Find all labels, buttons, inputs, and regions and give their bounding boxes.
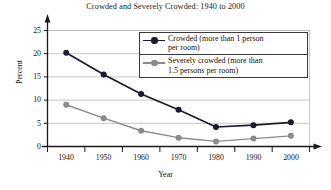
legend-label-severely-crowded-line1: Severely crowded (more than [168, 56, 262, 65]
ytick-label-0: 0 [21, 142, 41, 151]
chart-legend: Crowded (more than 1 person per room) Se… [139, 32, 308, 78]
ytick-label-5: 5 [21, 119, 41, 128]
data-point [250, 136, 256, 142]
y-axis-title: Percent [15, 60, 24, 84]
legend-label-crowded-line1: Crowded (more than 1 person [168, 34, 264, 43]
xtick-label-1950: 1950 [87, 153, 121, 162]
legend-key-crowded-icon [143, 35, 165, 46]
data-point [63, 102, 69, 108]
data-point [213, 124, 219, 130]
xtick-label-1960: 1960 [124, 153, 158, 162]
ytick-label-25: 25 [21, 26, 41, 35]
chart-figure: Crowded and Severely Crowded: 1940 to 20… [0, 0, 331, 190]
data-point [138, 91, 144, 97]
xtick-label-1940: 1940 [49, 153, 83, 162]
up-arrow-icon [45, 14, 51, 23]
legend-label-severely-crowded: Severely crowded (more than 1.5 persons … [168, 56, 262, 75]
x-axis-title: Year [0, 170, 331, 179]
legend-label-crowded: Crowded (more than 1 person per room) [168, 34, 264, 53]
ytick-label-20: 20 [21, 49, 41, 58]
legend-item-severely-crowded[interactable]: Severely crowded (more than 1.5 persons … [140, 55, 307, 76]
data-point [176, 107, 182, 113]
y-axis-title-wrap: Percent [0, 62, 39, 82]
xtick-label-1970: 1970 [162, 153, 196, 162]
legend-key-severely-crowded-icon [143, 57, 165, 68]
data-point [101, 72, 107, 78]
data-point [176, 135, 182, 141]
ytick-label-10: 10 [21, 95, 41, 104]
legend-item-crowded[interactable]: Crowded (more than 1 person per room) [140, 33, 307, 55]
data-point [63, 50, 69, 56]
right-arrow-icon [314, 144, 323, 150]
legend-label-severely-crowded-line2: 1.5 persons per room) [168, 66, 262, 75]
xtick-label-1990: 1990 [237, 153, 271, 162]
xtick-label-2000: 2000 [274, 153, 308, 162]
data-point [250, 122, 256, 128]
xtick-label-1980: 1980 [199, 153, 233, 162]
data-point [138, 128, 144, 134]
data-point [288, 119, 294, 125]
data-point [213, 138, 219, 144]
data-point [101, 115, 107, 121]
data-point [288, 133, 294, 139]
legend-label-crowded-line2: per room) [168, 43, 264, 52]
